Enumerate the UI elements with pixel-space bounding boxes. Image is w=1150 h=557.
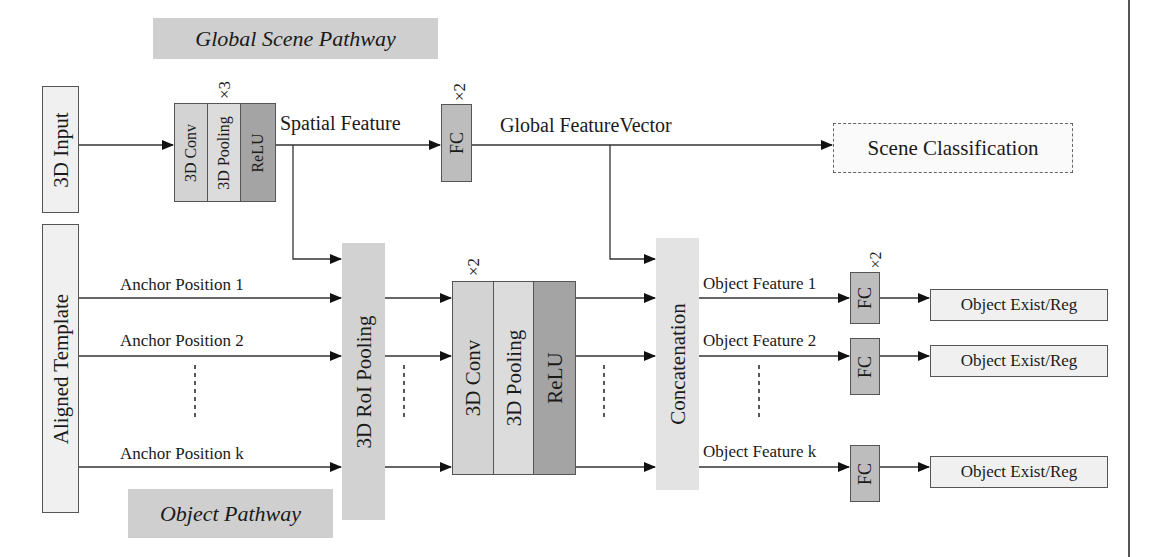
object-conv-label: 3D Conv bbox=[461, 340, 486, 416]
object-relu-label: ReLU bbox=[542, 352, 567, 403]
global-feature-vector-label: Global FeatureVector bbox=[500, 114, 672, 137]
concatenation-label: Concatenation bbox=[665, 303, 690, 424]
object-fc-block-2: FC bbox=[850, 338, 880, 395]
global-scene-pathway-banner: Global Scene Pathway bbox=[153, 18, 438, 59]
anchor-label-2: Anchor Position 2 bbox=[120, 331, 244, 351]
object-pathway-banner: Object Pathway bbox=[128, 489, 333, 538]
object-conv-block: 3D Conv bbox=[452, 281, 494, 475]
global-conv-block: 3D Conv bbox=[174, 103, 208, 202]
aligned-template-box: Aligned Template bbox=[42, 224, 79, 513]
object-pool-block: 3D Pooling bbox=[493, 281, 534, 475]
object-feature-label-2: Object Feature 2 bbox=[703, 331, 816, 351]
object-conv-repeat: ×2 bbox=[464, 255, 484, 279]
object-output-label-k: Object Exist/Reg bbox=[961, 462, 1078, 482]
object-pool-label: 3D Pooling bbox=[501, 330, 526, 426]
object-relu-block: ReLU bbox=[533, 281, 576, 475]
anchor-label-k: Anchor Position k bbox=[120, 444, 244, 464]
roi-pooling-block: 3D RoI Pooling bbox=[342, 243, 385, 520]
right-border-line bbox=[1128, 0, 1130, 557]
global-relu-block: ReLU bbox=[240, 103, 276, 202]
global-conv-label: 3D Conv bbox=[182, 123, 200, 181]
global-fc-label: FC bbox=[446, 132, 467, 154]
object-output-label-2: Object Exist/Reg bbox=[961, 351, 1078, 371]
object-fc-label-1: FC bbox=[855, 287, 876, 309]
object-conv-repeat-label: ×2 bbox=[464, 258, 484, 276]
object-fc-label-2: FC bbox=[855, 355, 876, 377]
object-output-box-2: Object Exist/Reg bbox=[930, 345, 1108, 377]
object-output-label-1: Object Exist/Reg bbox=[961, 295, 1078, 315]
anchor-label-1: Anchor Position 1 bbox=[120, 275, 244, 295]
global-relu-label: ReLU bbox=[249, 133, 267, 172]
global-conv-repeat-label: ×3 bbox=[215, 81, 235, 99]
aligned-template-label: Aligned Template bbox=[48, 293, 73, 443]
object-fc-repeat: ×2 bbox=[866, 248, 886, 272]
object-fc-repeat-label: ×2 bbox=[867, 251, 885, 268]
global-scene-pathway-label: Global Scene Pathway bbox=[195, 26, 395, 52]
global-fc-repeat: ×2 bbox=[450, 80, 470, 104]
object-output-box-1: Object Exist/Reg bbox=[930, 289, 1108, 321]
object-output-box-k: Object Exist/Reg bbox=[930, 456, 1108, 488]
spatial-feature-label: Spatial Feature bbox=[280, 112, 401, 135]
roi-pooling-label: 3D RoI Pooling bbox=[351, 315, 376, 448]
scene-classification-label: Scene Classification bbox=[868, 136, 1039, 161]
object-pathway-label: Object Pathway bbox=[160, 501, 301, 527]
object-fc-label-k: FC bbox=[855, 462, 876, 484]
object-fc-block-k: FC bbox=[850, 445, 880, 502]
object-fc-block-1: FC bbox=[850, 272, 880, 324]
global-pool-block: 3D Pooling bbox=[207, 103, 241, 202]
input-3d-label: 3D Input bbox=[48, 112, 73, 187]
scene-classification-box: Scene Classification bbox=[833, 123, 1073, 173]
global-fc-repeat-label: ×2 bbox=[450, 83, 470, 101]
global-conv-repeat: ×3 bbox=[215, 78, 235, 102]
concatenation-block: Concatenation bbox=[656, 238, 699, 490]
object-feature-label-k: Object Feature k bbox=[703, 442, 816, 462]
input-3d-box: 3D Input bbox=[42, 86, 79, 213]
global-pool-label: 3D Pooling bbox=[215, 116, 233, 189]
global-fc-block: FC bbox=[441, 104, 472, 182]
object-feature-label-1: Object Feature 1 bbox=[703, 274, 816, 294]
